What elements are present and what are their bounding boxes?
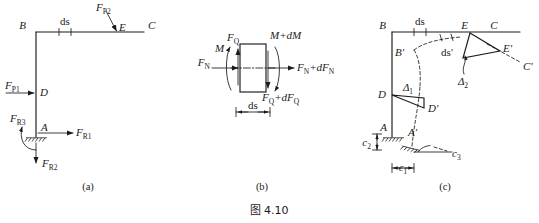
label-point-A: A: [40, 121, 48, 133]
delta1-wedge: [392, 95, 424, 108]
label-force-FN-dFN: FN+dFN: [296, 61, 335, 76]
label-c3: c3: [452, 147, 461, 162]
label-point-D-c: D: [377, 88, 386, 100]
fixed-support-A: [25, 138, 47, 142]
figure-canvas: B C ds E D A FP1 FP2 FR1 FR2 FR3 (a): [0, 0, 539, 223]
label-point-D-prime: D': [427, 102, 439, 114]
fixed-support-A-c: [382, 138, 404, 142]
c3-leader-dash: [434, 147, 447, 151]
label-reaction-FR2: FR2: [41, 157, 58, 172]
label-force-FP2: FP2: [95, 1, 111, 16]
figure-4-10: B C ds E D A FP1 FP2 FR1 FR2 FR3 (a): [0, 0, 539, 223]
label-point-E: E: [118, 21, 126, 33]
panel-label-b: (b): [256, 181, 269, 193]
label-dimension-ds: ds: [60, 15, 70, 27]
label-reaction-FR1: FR1: [75, 126, 92, 141]
ds-prime-tick-right: [451, 34, 453, 41]
deformed-beam-left: [414, 37, 462, 50]
label-point-A-prime: A': [407, 126, 418, 138]
label-point-E-prime: E': [502, 42, 513, 54]
label-moment-M-dM: M+dM: [269, 29, 302, 41]
figure-caption: 图 4.10: [250, 204, 289, 217]
label-dimension-ds-b: ds: [248, 99, 258, 111]
label-c2: c2: [362, 136, 371, 151]
panel-label-c: (c): [439, 181, 451, 193]
label-force-FP1: FP1: [4, 79, 20, 94]
label-force-FN: FN: [197, 56, 211, 71]
moment-M-dM-arc: [275, 47, 280, 91]
label-point-D: D: [39, 86, 48, 98]
moment-M-arc: [226, 47, 231, 90]
label-point-A-c: A: [379, 121, 387, 133]
panel-a: B C ds E D A FP1 FP2 FR1 FR2 FR3 (a): [4, 1, 156, 193]
delta2-leader: [463, 56, 465, 74]
label-moment-M: M: [214, 42, 225, 54]
label-point-B: B: [19, 19, 26, 31]
label-point-C: C: [148, 19, 156, 31]
label-reaction-FR3: FR3: [9, 112, 26, 127]
label-force-FQ-dFQ: FQ+dFQ: [261, 91, 300, 106]
label-point-B-prime: B': [395, 46, 405, 58]
panel-label-a: (a): [82, 181, 94, 193]
label-dimension-ds-c: ds: [415, 15, 425, 27]
label-force-FQ: FQ: [226, 31, 240, 46]
deformed-column-upper: [414, 50, 420, 86]
label-dimension-ds-prime: ds': [441, 46, 453, 58]
label-c1: c1: [399, 161, 408, 176]
label-point-E-c: E: [460, 19, 468, 31]
delta2-wedge: [463, 33, 500, 58]
label-delta1: Δ1: [402, 81, 413, 96]
label-point-C-prime: C': [523, 60, 533, 72]
c3-angle-arc: [418, 146, 430, 153]
displaced-support-A-prime: [400, 146, 419, 154]
label-point-C-c: C: [490, 19, 498, 31]
c2-dimension: [373, 134, 382, 150]
label-point-B-c: B: [379, 19, 386, 31]
panel-b: FN FQ M M+dM FN+dFN FQ+dFQ ds (b): [197, 29, 335, 193]
label-delta2: Δ2: [457, 75, 468, 90]
panel-c: B ds E C B' ds' E' C' D D' A A' Δ1 Δ2 c1…: [362, 15, 533, 193]
